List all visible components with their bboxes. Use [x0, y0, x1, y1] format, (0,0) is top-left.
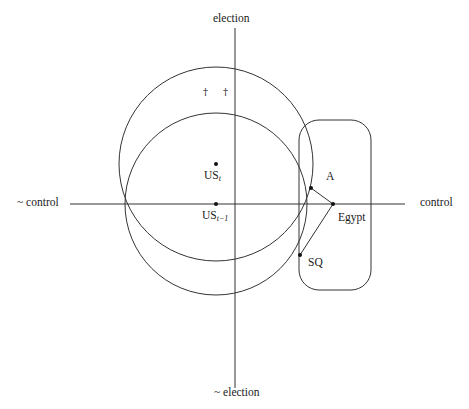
point-us-t [214, 162, 218, 166]
label-us-t-minus-1: USt−1 [202, 210, 228, 223]
line-egypt-sq [300, 204, 333, 255]
label-us-t-sub: t [219, 174, 221, 183]
line-a-egypt [311, 188, 333, 204]
diagram-canvas [0, 0, 469, 409]
label-a: A [326, 171, 334, 183]
dagger-mark-2: † [223, 87, 228, 97]
dagger-mark-1: † [203, 87, 208, 97]
label-us-t-minus-1-main: US [202, 209, 217, 221]
label-us-t-minus-1-sub: t−1 [217, 214, 229, 223]
axis-label-not-election: ~ election [214, 387, 260, 399]
label-us-t-main: US [204, 169, 219, 181]
axis-label-election: election [213, 13, 249, 25]
label-us-t: USt [204, 170, 221, 183]
point-sq [298, 253, 302, 257]
label-egypt: Egypt [338, 212, 365, 224]
point-us-t-minus-1 [214, 202, 218, 206]
axis-label-control: control [420, 197, 453, 209]
point-a [309, 186, 313, 190]
label-sq: SQ [308, 257, 323, 269]
point-egypt [331, 202, 335, 206]
axis-label-not-control: ~ control [17, 197, 59, 209]
